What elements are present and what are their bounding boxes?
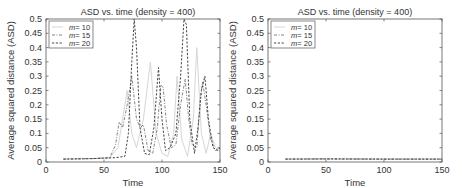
- x-tick-label: 0: [43, 165, 48, 175]
- y-tick-label: 0.4: [251, 43, 264, 53]
- y-tick-label: 0: [259, 157, 264, 167]
- y-axis-label: Average squared distance (ASD): [5, 21, 16, 160]
- y-tick-label: 0.05: [246, 143, 264, 153]
- x-tick-label: 50: [99, 165, 109, 175]
- legend-entry: m= 20: [69, 39, 90, 48]
- x-tick-label: 150: [212, 165, 227, 175]
- y-tick-label: 0.25: [24, 86, 42, 96]
- chart-title: ASD vs. time (density = 400): [298, 7, 412, 17]
- legend: m= 10m= 15m= 20: [49, 21, 93, 48]
- y-tick-label: 0.5: [29, 14, 42, 24]
- y-tick-label: 0.2: [251, 100, 264, 110]
- y-axis-label: Average squared distance (ASD): [227, 21, 238, 160]
- x-tick-label: 150: [434, 165, 449, 175]
- y-tick-label: 0.15: [24, 114, 42, 124]
- y-tick-label: 0.05: [24, 143, 42, 153]
- y-tick-label: 0.5: [251, 14, 264, 24]
- y-tick-label: 0.3: [251, 71, 264, 81]
- x-axis-label: Time: [345, 177, 366, 188]
- chart-right: 00.050.10.150.20.250.30.350.40.450.50501…: [227, 7, 450, 188]
- chart-left: 00.050.10.150.20.250.30.350.40.450.50501…: [5, 7, 228, 188]
- series-line: [63, 76, 220, 159]
- y-tick-label: 0.1: [29, 128, 42, 138]
- y-tick-label: 0.15: [246, 114, 264, 124]
- y-tick-label: 0: [37, 157, 42, 167]
- y-tick-label: 0.45: [246, 28, 264, 38]
- x-axis-label: Time: [123, 177, 144, 188]
- legend: m= 10m= 15m= 20: [271, 21, 315, 48]
- y-tick-label: 0.3: [29, 71, 42, 81]
- x-tick-label: 100: [376, 165, 391, 175]
- y-tick-label: 0.45: [24, 28, 42, 38]
- x-tick-label: 0: [265, 165, 270, 175]
- y-tick-label: 0.4: [29, 43, 42, 53]
- y-tick-label: 0.2: [29, 100, 42, 110]
- y-tick-label: 0.35: [24, 57, 42, 67]
- y-tick-label: 0.25: [246, 86, 264, 96]
- y-tick-label: 0.1: [251, 128, 264, 138]
- legend-entry: m= 20: [291, 39, 312, 48]
- series-line: [63, 48, 220, 160]
- x-tick-label: 50: [321, 165, 331, 175]
- x-tick-label: 100: [154, 165, 169, 175]
- y-tick-label: 0.35: [246, 57, 264, 67]
- chart-title: ASD vs. time (density = 400): [81, 7, 195, 17]
- figure: 00.050.10.150.20.250.30.350.40.450.50501…: [0, 0, 462, 188]
